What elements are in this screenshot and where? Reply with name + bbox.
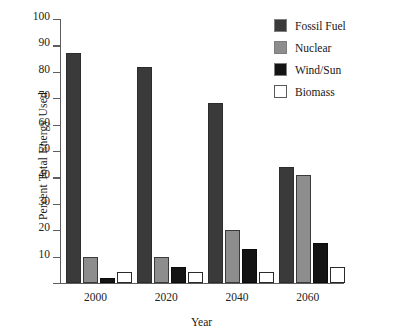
- bar-2040-biomass: [259, 272, 274, 283]
- bar-2020-wind-sun: [171, 267, 186, 283]
- legend-item-fossil-fuel: Fossil Fuel: [274, 16, 394, 35]
- legend-label-biomass: Biomass: [295, 86, 335, 98]
- legend-item-nuclear: Nuclear: [274, 38, 394, 57]
- y-tick-80: 80: [53, 72, 60, 73]
- legend-swatch-fossil-fuel-icon: [274, 19, 287, 32]
- bar-2040-nuclear: [225, 230, 240, 283]
- bar-2000-fossil-fuel: [66, 53, 81, 283]
- x-tick-label-2060: 2060: [272, 291, 343, 303]
- legend-swatch-wind-sun-icon: [274, 63, 287, 76]
- chart-legend: Fossil Fuel Nuclear Wind/Sun Biomass: [274, 16, 394, 104]
- y-tick-label-20: 20: [39, 221, 51, 233]
- bar-2000-biomass: [117, 272, 132, 283]
- y-tick-label-80: 80: [39, 63, 51, 75]
- legend-label-nuclear: Nuclear: [295, 42, 331, 54]
- y-tick-label-90: 90: [39, 36, 51, 48]
- y-tick-label-10: 10: [39, 248, 51, 260]
- y-tick-90: 90: [53, 45, 60, 46]
- legend-swatch-biomass-icon: [274, 85, 287, 98]
- bar-2040-fossil-fuel: [208, 103, 223, 283]
- bar-2040-wind-sun: [242, 249, 257, 283]
- y-tick-100: 100: [53, 19, 60, 20]
- y-tick-50: 50: [53, 151, 60, 152]
- bar-2000-wind-sun: [100, 278, 115, 283]
- x-tick-label-2020: 2020: [131, 291, 202, 303]
- x-axis-title: Year: [60, 316, 343, 328]
- legend-label-wind-sun: Wind/Sun: [295, 64, 341, 76]
- x-tick-label-2000: 2000: [60, 291, 131, 303]
- y-tick-60: 60: [53, 125, 60, 126]
- y-axis-line: [60, 19, 61, 284]
- bar-2060-wind-sun: [313, 243, 328, 283]
- y-tick-label-40: 40: [39, 168, 51, 180]
- y-tick-0: [53, 283, 60, 284]
- legend-swatch-nuclear-icon: [274, 41, 287, 54]
- y-tick-40: 40: [53, 177, 60, 178]
- bar-2000-nuclear: [83, 257, 98, 283]
- y-tick-label-60: 60: [39, 116, 51, 128]
- bar-2020-biomass: [188, 272, 203, 283]
- y-tick-70: 70: [53, 98, 60, 99]
- y-tick-label-100: 100: [33, 10, 50, 22]
- legend-label-fossil-fuel: Fossil Fuel: [295, 20, 346, 32]
- bar-2060-biomass: [330, 267, 345, 283]
- x-tick-label-2040: 2040: [202, 291, 273, 303]
- legend-item-wind-sun: Wind/Sun: [274, 60, 394, 79]
- y-tick-label-30: 30: [39, 195, 51, 207]
- y-tick-10: 10: [53, 257, 60, 258]
- bar-chart: Percent Total Energy Used 10203040506070…: [0, 0, 395, 332]
- bar-2060-nuclear: [296, 175, 311, 283]
- bar-2020-fossil-fuel: [137, 67, 152, 283]
- y-tick-20: 20: [53, 230, 60, 231]
- y-tick-label-50: 50: [39, 142, 51, 154]
- y-tick-label-70: 70: [39, 89, 51, 101]
- y-tick-30: 30: [53, 204, 60, 205]
- legend-item-biomass: Biomass: [274, 82, 394, 101]
- bar-2020-nuclear: [154, 257, 169, 283]
- x-axis-line: [60, 283, 344, 284]
- bar-2060-fossil-fuel: [279, 167, 294, 283]
